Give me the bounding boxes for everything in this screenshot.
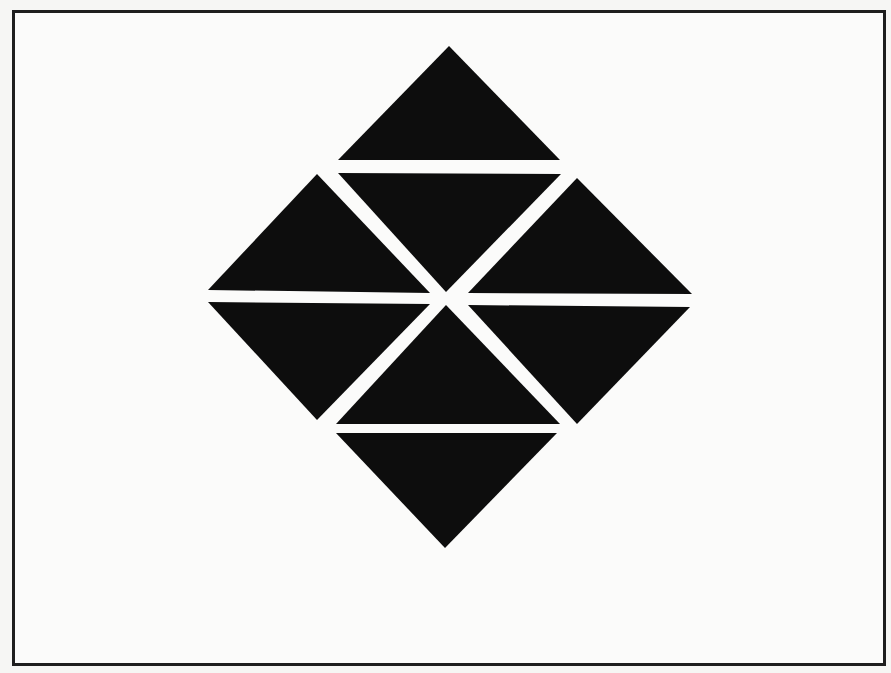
canvas bbox=[0, 0, 891, 673]
triangle-top bbox=[338, 46, 560, 160]
triangle-bottom bbox=[336, 433, 557, 548]
triangle-diamond-figure bbox=[0, 0, 891, 673]
